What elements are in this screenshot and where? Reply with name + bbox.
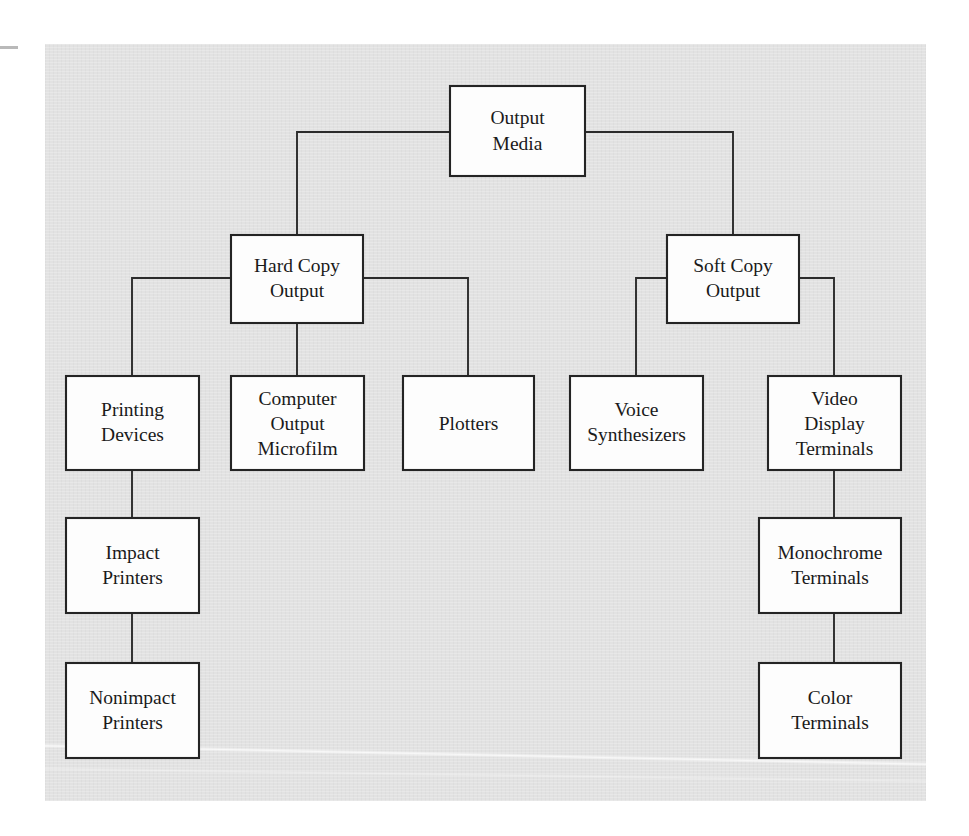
output-media-hierarchy-diagram: Output Media Hard Copy Output Soft Copy … [0,0,969,836]
node-soft-copy-output[interactable]: Soft Copy Output [667,235,799,323]
node-output-media-line2: Media [493,133,543,154]
node-video-display-terminals-line2: Display [804,413,865,434]
connector-soft-copy-to-video-display [799,278,834,376]
node-video-display-terminals[interactable]: Video Display Terminals [768,376,901,470]
node-voice-synthesizers-box[interactable] [570,376,703,470]
node-voice-synthesizers[interactable]: Voice Synthesizers [570,376,703,470]
connector-root-to-soft-copy [585,132,733,235]
node-soft-copy-output-line1: Soft Copy [693,255,773,276]
node-video-display-terminals-line3: Terminals [796,438,874,459]
node-voice-synthesizers-line2: Synthesizers [587,424,686,445]
connector-hard-copy-to-plotters [363,278,468,376]
node-plotters-line1: Plotters [439,413,499,434]
node-soft-copy-output-line2: Output [706,280,761,301]
node-impact-printers-line1: Impact [105,542,160,563]
node-output-media[interactable]: Output Media [450,86,585,176]
node-impact-printers[interactable]: Impact Printers [66,518,199,613]
node-computer-output-microfilm-line1: Computer [259,388,337,409]
node-nonimpact-printers-line2: Printers [102,712,163,733]
node-plotters[interactable]: Plotters [403,376,534,470]
node-impact-printers-line2: Printers [102,567,163,588]
node-computer-output-microfilm-line2: Output [270,413,325,434]
node-color-terminals[interactable]: Color Terminals [759,663,901,758]
node-monochrome-terminals-line1: Monochrome [777,542,882,563]
node-computer-output-microfilm[interactable]: Computer Output Microfilm [231,376,364,470]
node-soft-copy-output-box[interactable] [667,235,799,323]
node-computer-output-microfilm-line3: Microfilm [257,438,337,459]
node-output-media-line1: Output [490,107,545,128]
node-nonimpact-printers[interactable]: Nonimpact Printers [66,663,199,758]
node-color-terminals-line2: Terminals [791,712,869,733]
node-color-terminals-line1: Color [808,687,853,708]
node-monochrome-terminals-line2: Terminals [791,567,869,588]
node-output-media-box[interactable] [450,86,585,176]
node-video-display-terminals-line1: Video [811,388,857,409]
node-hard-copy-output-box[interactable] [231,235,363,323]
node-color-terminals-box[interactable] [759,663,901,758]
connector-soft-copy-to-voice-synthesizers [636,278,667,376]
node-voice-synthesizers-line1: Voice [614,399,658,420]
node-impact-printers-box[interactable] [66,518,199,613]
node-nonimpact-printers-line1: Nonimpact [89,687,176,708]
node-printing-devices-line2: Devices [101,424,164,445]
node-hard-copy-output[interactable]: Hard Copy Output [231,235,363,323]
node-monochrome-terminals-box[interactable] [759,518,901,613]
node-nonimpact-printers-box[interactable] [66,663,199,758]
node-printing-devices-box[interactable] [66,376,199,470]
connector-root-to-hard-copy [297,132,450,235]
figure-page: Output Media Hard Copy Output Soft Copy … [0,0,969,836]
node-printing-devices[interactable]: Printing Devices [66,376,199,470]
node-monochrome-terminals[interactable]: Monochrome Terminals [759,518,901,613]
node-printing-devices-line1: Printing [101,399,164,420]
connector-hard-copy-to-printing-devices [132,278,231,376]
node-hard-copy-output-line2: Output [270,280,325,301]
node-hard-copy-output-line1: Hard Copy [254,255,340,276]
